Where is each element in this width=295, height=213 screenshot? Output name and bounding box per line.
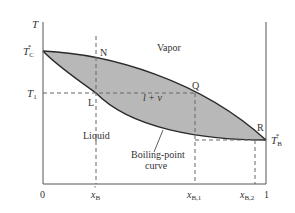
y-axis-label: T <box>32 18 39 30</box>
point-l: L <box>88 97 94 108</box>
tick-tb-star: TB* <box>271 132 282 148</box>
tick-xb-prime: xB′ <box>90 185 100 202</box>
tick-x-0: 0 <box>40 189 45 200</box>
point-r: R <box>257 122 264 133</box>
annotation-boiling-point: Boiling-point <box>131 149 185 160</box>
tick-x-1: 1 <box>264 189 269 200</box>
tick-xb2: xB,2 <box>239 189 255 202</box>
tick-t1: T1 <box>27 87 37 101</box>
region-liquid: Liquid <box>83 130 110 141</box>
region-vapor: Vapor <box>157 42 182 53</box>
tick-xb1: xB,1 <box>186 189 202 202</box>
point-n: N <box>100 47 107 58</box>
two-phase-region <box>43 51 266 140</box>
annotation-curve: curve <box>145 160 168 171</box>
tick-tc-star: TC* <box>23 43 34 59</box>
phase-diagram: T TC* T1 TB* 0 xB′ xB,1 xB,2 1 N L Q R V… <box>0 0 295 213</box>
point-q: Q <box>192 80 200 91</box>
